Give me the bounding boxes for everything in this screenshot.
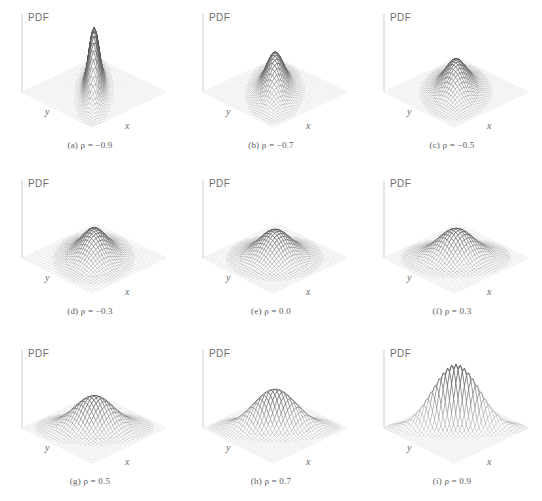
surface-canvas-f: [362, 166, 542, 308]
y-axis-label-e: y: [226, 272, 230, 283]
surface-canvas-a: [0, 0, 180, 142]
panel-caption-e: (e) ρ = 0.0: [181, 306, 361, 316]
y-axis-label-d: y: [45, 272, 49, 283]
x-axis-label-b: x: [306, 120, 310, 131]
pdf-axis-label-a: PDF: [28, 12, 49, 23]
pdf-surface-mesh: [226, 229, 324, 281]
surface-plot-f: [362, 166, 542, 308]
surface-plot-g: [0, 336, 180, 478]
x-axis-label-d: x: [125, 286, 129, 297]
pdf-axis-label-g: PDF: [28, 348, 49, 359]
x-axis-label-h: x: [306, 456, 310, 467]
surface-plot-a: [0, 0, 180, 142]
y-axis-label-i: y: [407, 442, 411, 453]
pdf-surface-mesh: [245, 52, 305, 124]
pdf-axis-label-d: PDF: [28, 178, 49, 189]
panel-b: PDFyx(b) ρ = −0.7: [181, 0, 361, 167]
panel-c: PDFyx(c) ρ = −0.5: [362, 0, 542, 167]
figure-bivariate-gaussian-grid: PDFyx(a) ρ = −0.9PDFyx(b) ρ = −0.7PDFyx(…: [0, 0, 542, 501]
x-axis-label-e: x: [306, 286, 310, 297]
surface-canvas-g: [0, 336, 180, 478]
panel-f: PDFyx(f) ρ = 0.3: [362, 166, 542, 333]
surface-canvas-c: [362, 0, 542, 142]
surface-plot-h: [181, 336, 361, 478]
y-axis-label-h: y: [226, 442, 230, 453]
panel-caption-i: (i) ρ = 0.9: [362, 476, 542, 486]
surface-canvas-i: [362, 336, 542, 478]
panel-i: PDFyx(i) ρ = 0.9: [362, 336, 542, 501]
panel-e: PDFyx(e) ρ = 0.0: [181, 166, 361, 333]
y-axis-label-f: y: [407, 272, 411, 283]
x-axis-label-f: x: [487, 286, 491, 297]
surface-plot-e: [181, 166, 361, 308]
x-axis-label-i: x: [487, 456, 491, 467]
pdf-surface-mesh: [384, 364, 528, 437]
panel-caption-c: (c) ρ = −0.5: [362, 140, 542, 150]
panel-h: PDFyx(h) ρ = 0.7: [181, 336, 361, 501]
pdf-axis-label-e: PDF: [209, 178, 230, 189]
y-axis-label-c: y: [407, 106, 411, 117]
surface-canvas-b: [181, 0, 361, 142]
surface-plot-c: [362, 0, 542, 142]
x-axis-label-c: x: [487, 120, 491, 131]
panel-caption-a: (a) ρ = −0.9: [0, 140, 180, 150]
pdf-surface-mesh: [209, 389, 340, 442]
y-axis-label-g: y: [45, 442, 49, 453]
panel-d: PDFyx(d) ρ = −0.3: [0, 166, 180, 333]
pdf-axis-label-i: PDF: [390, 348, 411, 359]
panel-caption-g: (g) ρ = 0.5: [0, 476, 180, 486]
x-axis-label-g: x: [125, 456, 129, 467]
panel-caption-f: (f) ρ = 0.3: [362, 306, 542, 316]
surface-canvas-e: [181, 166, 361, 308]
panel-caption-b: (b) ρ = −0.7: [181, 140, 361, 150]
pdf-axis-label-h: PDF: [209, 348, 230, 359]
surface-canvas-d: [0, 166, 180, 308]
pdf-surface-mesh: [35, 396, 154, 446]
y-axis-label-b: y: [226, 106, 230, 117]
panel-a: PDFyx(a) ρ = −0.9: [0, 0, 180, 167]
pdf-axis-label-c: PDF: [390, 12, 411, 23]
y-axis-label-a: y: [45, 106, 49, 117]
panel-g: PDFyx(g) ρ = 0.5: [0, 336, 180, 501]
pdf-axis-label-b: PDF: [209, 12, 230, 23]
pdf-surface-mesh: [420, 59, 493, 121]
x-axis-label-a: x: [125, 120, 129, 131]
panel-caption-d: (d) ρ = −0.3: [0, 306, 180, 316]
surface-canvas-h: [181, 336, 361, 478]
pdf-axis-label-f: PDF: [390, 178, 411, 189]
pdf-surface-mesh: [401, 228, 511, 278]
surface-plot-d: [0, 166, 180, 308]
panel-caption-h: (h) ρ = 0.7: [181, 476, 361, 486]
surface-plot-i: [362, 336, 542, 478]
surface-plot-b: [181, 0, 361, 142]
